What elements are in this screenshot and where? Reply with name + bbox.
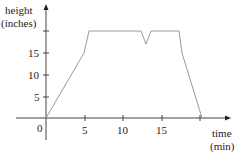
y-axis-arrow-icon [44, 4, 49, 10]
x-axis-label-line2: (min) [210, 140, 234, 152]
x-tick-label-15: 15 [156, 124, 167, 136]
y-tick-label-15: 15 [28, 47, 39, 59]
x-tick-label-10: 10 [117, 124, 128, 136]
x-axis-arrow-icon [225, 116, 231, 121]
origin-label: 0 [37, 122, 43, 134]
y-tick-label-10: 10 [28, 69, 39, 81]
y-axis-label-line1: height [5, 4, 33, 16]
height-series-line [46, 31, 202, 118]
y-tick-label-5: 5 [34, 91, 40, 103]
x-tick-label-5: 5 [82, 124, 88, 136]
x-axis-label-line1: time [212, 127, 232, 139]
y-axis-label-line2: (inches) [1, 17, 36, 29]
